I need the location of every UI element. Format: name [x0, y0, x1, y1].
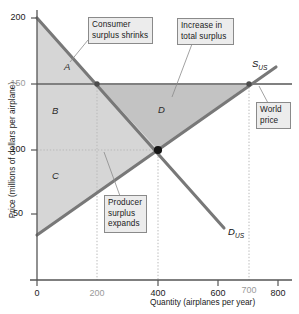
- x-tick-label-700: 700: [236, 285, 262, 295]
- callout-increase-line1: Increase in: [181, 21, 230, 32]
- supply-curve-label-sub: US: [258, 64, 267, 71]
- y-tick-label-100: 100: [7, 144, 29, 154]
- demand-curve-label-sub: US: [235, 232, 244, 239]
- x-tick-label-800: 800: [265, 288, 291, 298]
- supply-curve-label: SUS: [252, 58, 268, 71]
- y-tick-label-50: 50: [7, 208, 29, 218]
- leader-world-price: [259, 86, 268, 103]
- callout-producer-line2: surplus: [108, 209, 143, 220]
- x-tick-label-400: 400: [145, 288, 171, 298]
- callout-increase-line2: total surplus: [181, 32, 230, 43]
- y-tick-label-200: 200: [7, 12, 29, 22]
- y-tick-label-150: 150: [7, 78, 29, 88]
- figure-container: Price (millions of dollars per airplane)…: [0, 0, 299, 314]
- callout-producer-surplus-expands: Producer surplus expands: [104, 195, 147, 233]
- quantity-demanded-marker: [94, 81, 99, 86]
- domestic-equilibrium-marker: [154, 146, 162, 154]
- callout-world-line2: price: [260, 116, 287, 127]
- quantity-supplied-marker: [246, 81, 251, 86]
- callout-world-line1: World: [260, 105, 287, 116]
- callout-increase-in-total-surplus: Increase in total surplus: [177, 18, 234, 45]
- x-tick-label-600: 600: [205, 288, 231, 298]
- region-a-label: A: [64, 61, 70, 72]
- region-c-label: C: [52, 170, 59, 181]
- chart-canvas: [0, 0, 299, 314]
- callout-producer-line3: expands: [108, 219, 143, 230]
- region-d-label: D: [158, 104, 165, 115]
- callout-world-price: World price: [256, 102, 291, 129]
- x-axis-label: Quantity (airplanes per year): [150, 297, 295, 307]
- callout-consumer-line1: Consumer: [92, 20, 149, 31]
- x-tick-label-0: 0: [27, 288, 47, 298]
- callout-consumer-line2: surplus shrinks: [92, 31, 149, 42]
- demand-curve-label: DUS: [228, 226, 244, 239]
- demand-curve-label-main: D: [228, 226, 235, 237]
- x-tick-label-200: 200: [84, 288, 110, 298]
- callout-producer-line1: Producer: [108, 198, 143, 209]
- region-b-label: B: [52, 105, 58, 116]
- callout-consumer-surplus-shrinks: Consumer surplus shrinks: [88, 17, 153, 44]
- leader-consumer-surplus: [70, 40, 88, 62]
